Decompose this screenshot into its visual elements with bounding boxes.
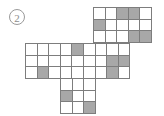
grid-block-top bbox=[93, 7, 152, 43]
grid-cell-empty bbox=[26, 44, 38, 56]
grid-cell-empty bbox=[73, 102, 85, 114]
grid-cell-empty bbox=[84, 44, 96, 56]
grid-cell-empty bbox=[140, 20, 152, 32]
grid-cell-empty bbox=[129, 20, 141, 32]
grid-block-middle bbox=[25, 43, 130, 79]
grid-cell-shaded bbox=[84, 102, 96, 114]
figure-index-label: 2 bbox=[9, 9, 25, 25]
grid-cell-empty bbox=[38, 56, 50, 68]
grid-cell-empty bbox=[94, 31, 106, 43]
grid-cell-empty bbox=[96, 56, 108, 68]
grid-cell-empty bbox=[73, 91, 85, 103]
grid-cell-empty bbox=[61, 79, 73, 91]
grid-cell-empty bbox=[96, 67, 108, 79]
grid-cell-empty bbox=[84, 79, 96, 91]
grid-cell-empty bbox=[106, 20, 118, 32]
grid-cell-shaded bbox=[129, 8, 141, 20]
grid-cell-empty bbox=[26, 67, 38, 79]
grid-cell-shaded bbox=[107, 67, 119, 79]
grid-cell-empty bbox=[117, 20, 129, 32]
grid-cell-empty bbox=[49, 44, 61, 56]
grid-cell-shaded bbox=[107, 56, 119, 68]
grid-cell-empty bbox=[26, 56, 38, 68]
grid-cell-empty bbox=[94, 8, 106, 20]
grid-cell-empty bbox=[107, 44, 119, 56]
grid-cell-empty bbox=[140, 8, 152, 20]
grid-block-bottom bbox=[60, 78, 96, 114]
grid-cell-shaded bbox=[94, 20, 106, 32]
grid-cell-empty bbox=[117, 31, 129, 43]
grid-cell-empty bbox=[38, 44, 50, 56]
grid-cell-shaded bbox=[119, 56, 131, 68]
grid-cell-shaded bbox=[129, 31, 141, 43]
grid-cell-empty bbox=[84, 91, 96, 103]
grid-cell-shaded bbox=[72, 44, 84, 56]
grid-cell-empty bbox=[72, 56, 84, 68]
grid-cell-shaded bbox=[61, 91, 73, 103]
grid-cell-empty bbox=[49, 56, 61, 68]
grid-cell-empty bbox=[61, 56, 73, 68]
grid-cell-shaded bbox=[38, 67, 50, 79]
figure-canvas: 2 bbox=[0, 0, 164, 116]
grid-cell-empty bbox=[119, 44, 131, 56]
grid-cell-empty bbox=[119, 67, 131, 79]
grid-cell-empty bbox=[96, 44, 108, 56]
grid-cell-shaded bbox=[140, 31, 152, 43]
grid-cell-empty bbox=[84, 56, 96, 68]
grid-cell-empty bbox=[61, 102, 73, 114]
grid-cell-empty bbox=[73, 79, 85, 91]
grid-cell-empty bbox=[61, 44, 73, 56]
grid-cell-empty bbox=[106, 31, 118, 43]
grid-cell-empty bbox=[106, 8, 118, 20]
grid-cell-shaded bbox=[117, 8, 129, 20]
